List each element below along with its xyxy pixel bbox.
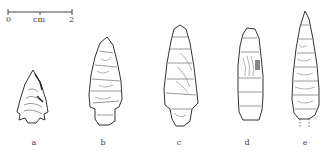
scale-bar: 0 cm 2	[0, 0, 80, 30]
artifact-a-label: a	[28, 138, 40, 147]
scale-start-label: 0	[6, 15, 11, 24]
artifact-b-label: b	[97, 138, 109, 147]
artifact-b-drawing	[87, 35, 125, 127]
projectile-point-icon	[162, 23, 200, 128]
artifact-e-drawing	[289, 9, 321, 129]
projectile-point-icon	[14, 68, 52, 126]
projectile-point-icon	[87, 35, 125, 127]
scale-end-label: 2	[69, 15, 74, 24]
artifact-d-drawing	[235, 26, 265, 122]
artifact-d-label: d	[241, 138, 253, 147]
artifact-c-label: c	[173, 138, 185, 147]
artifact-c-drawing	[162, 23, 200, 128]
projectile-point-icon	[235, 26, 265, 122]
artifact-e-label: e	[299, 138, 311, 147]
projectile-point-icon	[289, 9, 321, 129]
scale-unit-label: cm	[33, 15, 45, 24]
artifact-a-drawing	[14, 68, 52, 126]
